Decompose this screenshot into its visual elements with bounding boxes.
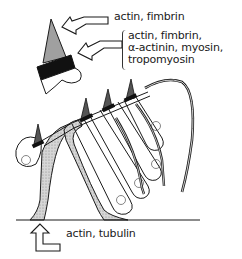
band-arrow-icon	[78, 41, 122, 60]
hair-cell-diagram: actin, fimbrin actin, fimbrin, α-actinin…	[0, 0, 242, 259]
outer-fiber-inner	[145, 80, 193, 192]
band-label-line-3: tropomyosin	[128, 54, 223, 66]
base-arrow-icon	[31, 224, 60, 251]
band-protein-label: actin, fimbrin, α-actinin, myosin, tropo…	[128, 30, 223, 66]
center-support-stalk	[64, 120, 128, 220]
tip-arrow-icon	[62, 17, 108, 34]
base-protein-label: actin, tubulin	[66, 228, 136, 240]
tip-protein-label: actin, fimbrin	[114, 11, 185, 23]
